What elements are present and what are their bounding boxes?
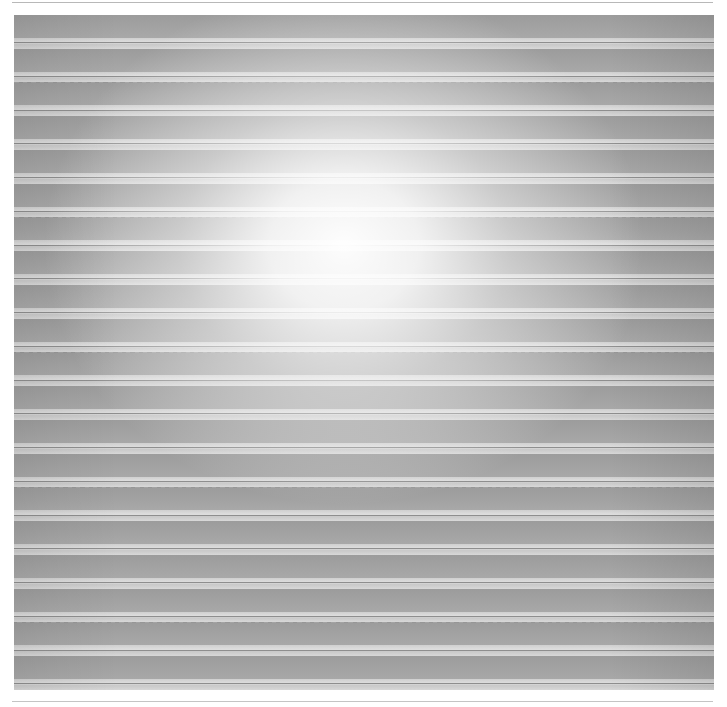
top-rule-line — [12, 2, 713, 3]
stripe-band — [14, 589, 714, 623]
stripe-band — [14, 488, 714, 522]
stripe-band — [14, 285, 714, 319]
striped-texture-image — [14, 15, 714, 690]
stripe-band — [14, 184, 714, 218]
stripe-band — [14, 555, 714, 589]
stripe-band — [14, 386, 714, 420]
stripe-band — [14, 116, 714, 150]
stripe-band — [14, 454, 714, 488]
horizontal-stripes — [14, 15, 714, 690]
stripe-band — [14, 319, 714, 353]
stripe-band — [14, 218, 714, 252]
bottom-rule-line — [12, 701, 713, 702]
stripe-band — [14, 251, 714, 285]
stripe-band — [14, 353, 714, 387]
stripe-band — [14, 521, 714, 555]
stripe-band — [14, 420, 714, 454]
stripe-band — [14, 83, 714, 117]
stripe-band — [14, 49, 714, 83]
stripe-band — [14, 656, 714, 690]
stripe-band — [14, 150, 714, 184]
stripe-band — [14, 623, 714, 657]
stripe-band — [14, 15, 714, 49]
